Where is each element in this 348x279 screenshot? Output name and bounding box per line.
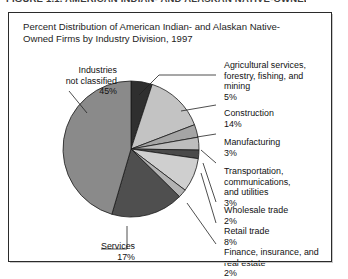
leader-line-transportation [201,150,216,163]
label-services: Services 17% [35,241,135,262]
label-finance-insurance-real-estate: Finance, insurance, andreal estate 2% [224,247,342,279]
label-services-text: Services [101,241,135,251]
label-retail-trade: Retail trade 8% [224,226,342,247]
label-wholesale-trade-text: Wholesale trade [224,205,288,215]
label-manufacturing-text: Manufacturing [224,137,280,147]
label-wholesale-trade-pct: 2% [224,216,342,227]
label-wholesale-trade: Wholesale trade 2% [224,205,342,226]
label-manufacturing-pct: 3% [224,148,342,159]
label-agricultural-pct: 5% [224,92,342,103]
cut-off-figure-heading: FIGURE 1.1. AMERICAN INDIAN- AND ALASKAN… [6,0,306,5]
figure-frame: Percent Distribution of American Indian-… [8,12,332,262]
label-construction-text: Construction [224,108,274,118]
label-finance-insurance-real-estate-text: Finance, insurance, andreal estate [224,247,319,268]
leader-line-manufacturing [197,134,216,137]
leader-line-construction [181,105,216,111]
pie-slice-group [63,81,199,217]
label-industries-not-classified: Industriesnot classified 45% [13,65,117,97]
label-transportation-text: Transportation,communications,and utilit… [224,166,291,197]
label-finance-insurance-real-estate-pct: 2% [224,268,342,279]
label-retail-trade-pct: 8% [224,237,342,248]
label-industries-not-classified-pct: 45% [13,86,117,97]
label-services-pct: 17% [35,252,135,263]
label-industries-not-classified-text: Industriesnot classified [66,65,117,86]
label-retail-trade-text: Retail trade [224,226,269,236]
leader-line-wholesale [203,163,216,202]
label-agricultural-text: Agricultural services,forestry, fishing,… [224,60,306,91]
label-transportation: Transportation,communications,and utilit… [224,166,342,208]
label-manufacturing: Manufacturing 3% [224,137,342,158]
label-construction-pct: 14% [224,119,342,130]
label-construction: Construction 14% [224,108,342,129]
label-agricultural: Agricultural services,forestry, fishing,… [224,60,342,102]
